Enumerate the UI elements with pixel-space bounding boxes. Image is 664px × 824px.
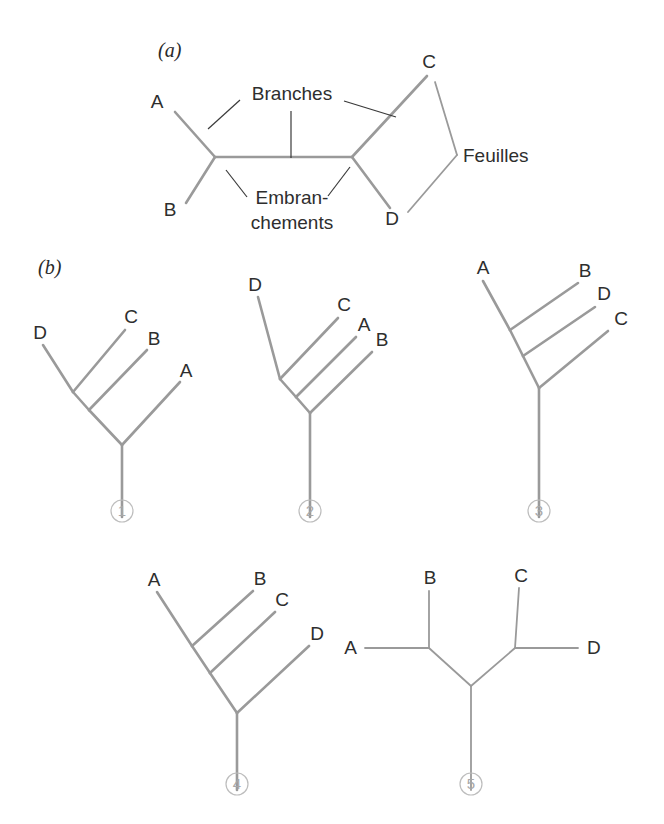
tree-3-branch-a [483,281,510,330]
tree-4-taxon-d: D [310,623,324,644]
tree-4-taxon-a: A [148,569,161,590]
tree-4-branch-a [157,592,192,646]
panel-b-label: (b) [38,256,62,279]
tree-1-branch-c [73,330,125,392]
tree-5: B C A D 5 [344,565,600,795]
tree-4-branch-b [192,591,253,646]
branch-d [352,157,390,208]
tree-5-taxon-d: D [587,637,601,658]
panel-a-taxon-a: A [151,91,164,112]
tree-4-taxon-c: C [275,589,289,610]
panel-a-annotation-branches: Branches [252,83,332,104]
tree-3-internal-1 [523,356,539,388]
tree-3-internal-2 [510,330,523,356]
tree-3-taxon-d: D [597,283,611,304]
tree-3-taxon-c: C [614,308,628,329]
tree-5-internal-left [429,648,471,686]
tree-2-branch-d [258,297,280,379]
tree-4-branch-d [237,646,309,713]
tree-5-taxon-a: A [344,637,357,658]
branch-c [352,76,427,157]
tree-1-taxon-b: B [148,328,161,349]
tree-2-internal-1 [296,397,310,413]
branch-b [186,157,215,203]
tree-2-branch-b [310,352,372,413]
panel-a-branches-leaders [208,100,396,158]
tree-4: A B C D 4 [148,568,324,795]
tree-3-branch-b [510,283,578,330]
tree-1-taxon-a: A [180,360,193,381]
panel-a-label: (a) [158,39,182,62]
tree-2-internal-2 [280,379,296,397]
tree-3-taxon-b: B [579,260,592,281]
tree-1-internal-2 [73,392,89,410]
tree-3-number: 3 [535,502,543,519]
tree-1-taxon-c: C [124,306,138,327]
tree-4-internal-1 [210,673,237,713]
tree-2: D C A B 2 [248,274,388,522]
panel-a-leaf-indicator [408,82,457,212]
tree-4-number: 4 [233,775,241,792]
tree-2-branch-a [296,337,356,397]
branch-a [175,112,215,157]
tree-5-taxon-b: B [424,567,437,588]
tree-5-branch-c [515,588,519,648]
tree-1-taxon-d: D [33,322,47,343]
tree-2-taxon-b: B [376,329,389,350]
leader-branches-left [208,100,240,129]
tree-1-number: 1 [118,502,126,519]
phylogenetic-tree-figure: (a) A B C D Branches [0,0,664,824]
tree-2-branch-c [280,318,338,379]
panel-a-taxon-c: C [422,51,436,72]
tree-2-number: 2 [306,502,314,519]
tree-1-branch-b [89,350,147,410]
tree-2-taxon-a: A [358,314,371,335]
tree-5-taxon-c: C [514,565,528,586]
panel-a-annotation-embranchements-line2: chements [251,212,333,233]
tree-1: D C B A 1 [33,306,193,522]
tree-3-taxon-a: A [477,257,490,278]
tree-5-internal-right [471,648,515,686]
tree-4-internal-2 [192,646,210,673]
panel-a: (a) A B C D Branches [151,39,529,233]
tree-1-branch-a [122,382,180,445]
leader-feuilles-d [408,155,457,212]
leader-embr-right [328,167,350,196]
panel-a-taxon-d: D [385,208,399,229]
tree-2-taxon-c: C [337,294,351,315]
panel-b: (b) D C B A 1 D C [33,256,628,795]
panel-a-taxon-b: B [164,199,177,220]
panel-a-annotation-embranchements-line1: Embran- [256,187,329,208]
leader-branches-right [344,101,396,117]
tree-2-taxon-d: D [248,274,262,295]
leader-embr-left [226,170,247,197]
tree-3: A B D C 3 [477,257,628,522]
panel-a-annotation-feuilles: Feuilles [463,145,528,166]
tree-1-internal-1 [89,410,122,445]
tree-1-branch-d [43,345,73,392]
leader-feuilles-c [435,82,457,155]
tree-4-taxon-b: B [254,568,267,589]
tree-5-number: 5 [467,775,475,792]
